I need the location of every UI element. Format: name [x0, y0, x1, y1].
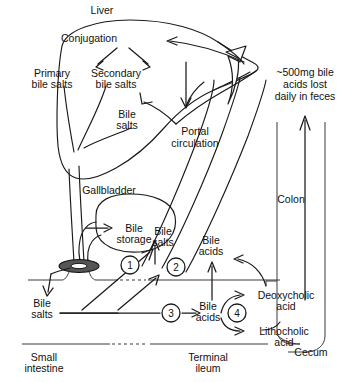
- label-secondary-bile-salts-line2: bile salts: [96, 78, 137, 90]
- step-marker-3-label: 3: [168, 308, 174, 319]
- hepatic-ductule-bilesalts: [84, 128, 131, 148]
- label-bile-storage-line2: storage: [116, 233, 151, 245]
- label-cecum: Cecum: [294, 346, 328, 358]
- common-bile-duct-left: [69, 169, 74, 262]
- deoxycholic-colon-connector: [266, 281, 277, 286]
- step3-diagonal-arrow: [118, 278, 156, 310]
- portal-return-outer: [176, 71, 256, 124]
- label-liver: Liver: [91, 4, 114, 16]
- duodenum-wall-right: [88, 270, 118, 280]
- conjugation-to-primary-arrow: [98, 48, 117, 64]
- step-marker-4-label: 4: [234, 308, 240, 319]
- duodenum-wall-left: [28, 270, 70, 280]
- label-feces-loss-line1: ~500mg bile: [276, 66, 334, 78]
- label-portal-circulation-line1: Portal: [181, 125, 208, 137]
- hepatic-ductule-primary: [64, 86, 74, 152]
- colon-wall-outer: [288, 122, 325, 352]
- label-bile-salts-ileum-line2: salts: [152, 236, 174, 248]
- hepatic-ductule-secondary: [78, 86, 106, 150]
- label-bile-salts-liver-line2: salts: [116, 119, 138, 131]
- label-small-intestine-line2: intestine: [24, 362, 63, 374]
- common-bile-duct-right: [79, 166, 84, 262]
- label-portal-circulation-line2: circulation: [171, 137, 218, 149]
- label-primary-bile-salts-line2: bile salts: [32, 78, 73, 90]
- portal-vessel-3: [186, 80, 266, 272]
- label-colon: Colon: [277, 193, 305, 205]
- bile-salts-release-arrow: [48, 274, 51, 292]
- enterohepatic-circulation-diagram: Liver Conjugation Primary bile salts Sec…: [0, 0, 349, 382]
- conjugation-to-secondary-arrow: [129, 48, 148, 64]
- label-feces-loss-line2: acids lost: [283, 78, 327, 90]
- step-marker-1-label: 1: [127, 260, 133, 271]
- label-gallbladder: Gallbladder: [82, 184, 136, 196]
- label-lithocholic-acid-line2: acid: [274, 336, 293, 348]
- label-terminal-ileum-line2: ileum: [195, 362, 220, 374]
- label-bile-salts-duodenum-line2: salts: [31, 308, 53, 320]
- label-bile-acids-lower-line2: acids: [196, 311, 221, 323]
- label-bile-acids-upper-line2: acids: [199, 245, 224, 257]
- label-conjugation: Conjugation: [61, 32, 117, 44]
- label-deoxycholic-acid-line2: acid: [276, 300, 295, 312]
- sphincter-of-oddi-lumen: [71, 263, 87, 268]
- step-marker-2-label: 2: [173, 262, 179, 273]
- label-feces-loss-line3: daily in feces: [275, 90, 336, 102]
